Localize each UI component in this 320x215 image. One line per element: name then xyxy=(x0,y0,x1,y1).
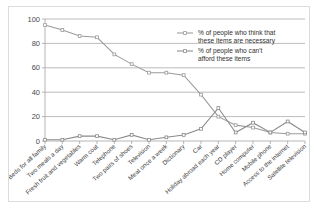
data-point-marker xyxy=(286,120,289,123)
data-point-marker xyxy=(96,135,99,138)
data-point-marker xyxy=(182,74,185,77)
data-point-marker xyxy=(304,131,307,134)
line-chart: 020406080100Beds for all familyTwo meals… xyxy=(9,7,311,203)
data-point-marker xyxy=(61,29,64,32)
data-point-marker xyxy=(44,138,47,141)
data-point-marker xyxy=(286,132,289,135)
y-axis-tick-label: 60 xyxy=(32,63,40,72)
data-point-marker xyxy=(217,107,220,110)
y-axis-tick-label: 20 xyxy=(32,112,40,121)
legend-label-1-line2: these items are necessary xyxy=(198,37,276,45)
legend-label-2-line2: afford these items xyxy=(198,55,251,62)
y-axis-tick-label: 100 xyxy=(27,15,40,24)
x-axis-category-label: Car xyxy=(191,143,203,155)
data-point-marker xyxy=(165,136,168,139)
data-point-marker xyxy=(165,71,168,74)
y-axis-tick-label: 40 xyxy=(32,88,40,97)
data-point-marker xyxy=(234,131,237,134)
data-point-marker xyxy=(130,134,133,137)
data-point-marker xyxy=(113,138,116,141)
series-line-2 xyxy=(45,108,305,140)
data-point-marker xyxy=(148,138,151,141)
chart-plot-area: 020406080100Beds for all familyTwo meals… xyxy=(9,7,311,203)
data-point-marker xyxy=(200,127,203,130)
data-point-marker xyxy=(269,131,272,134)
y-axis-tick-label: 80 xyxy=(32,39,40,48)
data-point-marker xyxy=(61,138,64,141)
legend-label-2: % of people who can't xyxy=(198,47,262,55)
data-point-marker xyxy=(130,63,133,66)
data-point-marker xyxy=(252,121,255,124)
data-point-marker xyxy=(78,35,81,38)
data-point-marker xyxy=(252,126,255,129)
data-point-marker xyxy=(44,24,47,27)
legend-swatch-marker-2 xyxy=(184,50,187,53)
chart-card: 020406080100Beds for all familyTwo meals… xyxy=(8,6,310,202)
legend-label-1: % of people who think that xyxy=(198,29,276,37)
data-point-marker xyxy=(182,134,185,137)
data-point-marker xyxy=(217,115,220,118)
data-point-marker xyxy=(113,53,116,56)
legend-swatch-marker-1 xyxy=(184,32,187,35)
data-point-marker xyxy=(200,93,203,96)
data-point-marker xyxy=(78,135,81,138)
data-point-marker xyxy=(96,36,99,39)
data-point-marker xyxy=(234,124,237,127)
data-point-marker xyxy=(148,71,151,74)
